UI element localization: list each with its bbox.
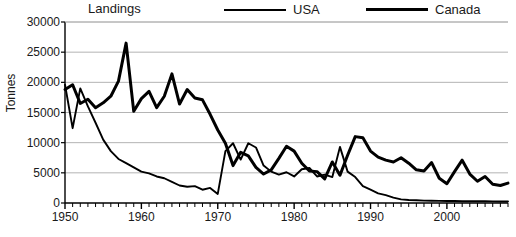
landings-chart: Landings USA Canada Tonnes 3000025000200… xyxy=(0,0,516,237)
plot-area xyxy=(0,0,516,237)
series-line-canada xyxy=(65,43,508,185)
